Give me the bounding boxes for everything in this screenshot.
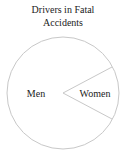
pie-chart: Men Women (0, 0, 126, 163)
slice-label-men: Men (27, 88, 45, 99)
slice-label-women: Women (80, 88, 111, 99)
